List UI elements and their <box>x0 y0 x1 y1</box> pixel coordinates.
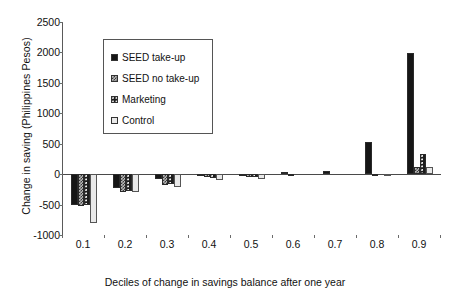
x-axis-tick-labels: 0.10.20.30.40.50.60.70.80.9 <box>62 238 440 254</box>
x-axis-tick-label: 0.9 <box>399 238 439 250</box>
bar-group <box>315 22 357 235</box>
x-axis-tick-label: 0.8 <box>357 238 397 250</box>
x-axis-tick-mark <box>272 235 273 238</box>
x-axis-tick-label: 0.7 <box>315 238 355 250</box>
x-axis-tick-mark <box>230 235 231 238</box>
x-axis-tick-mark <box>62 235 63 238</box>
legend-swatch-icon <box>111 96 118 103</box>
legend-item-label: Marketing <box>122 94 166 105</box>
y-axis-tick-label: 1500 <box>20 77 60 89</box>
x-axis-tick-mark <box>188 235 189 238</box>
x-axis-tick-mark <box>314 235 315 238</box>
legend-item-label: SEED no take-up <box>122 73 199 84</box>
bar <box>365 142 371 174</box>
bar <box>174 174 180 187</box>
bar-group <box>273 22 315 235</box>
bar <box>384 174 390 176</box>
y-axis-tick-mark <box>59 144 63 145</box>
legend-item[interactable]: SEED no take-up <box>111 68 212 89</box>
y-axis-tick-labels: 25002000150010005000-500-1000 <box>16 0 60 299</box>
bar-group <box>63 22 105 235</box>
bar <box>372 174 378 176</box>
bar <box>216 174 222 179</box>
legend-item[interactable]: Marketing <box>111 89 212 110</box>
x-axis-tick-label: 0.6 <box>273 238 313 250</box>
bar <box>132 174 138 192</box>
y-axis-tick-label: 0 <box>20 168 60 180</box>
x-axis-tick-mark <box>104 235 105 238</box>
y-axis-tick-mark <box>59 174 63 175</box>
x-axis-tick-mark <box>356 235 357 238</box>
x-axis-tick-label: 0.3 <box>147 238 187 250</box>
bar <box>258 174 264 179</box>
bar-group <box>357 22 399 235</box>
bar-group <box>399 22 441 235</box>
x-axis-tick-mark <box>440 235 441 238</box>
y-axis-tick-label: -500 <box>20 199 60 211</box>
y-axis-tick-label: 2500 <box>20 16 60 28</box>
y-axis-tick-mark <box>59 113 63 114</box>
bar <box>323 171 329 174</box>
bar <box>90 174 96 223</box>
y-axis-tick-mark <box>59 22 63 23</box>
y-axis-tick-mark <box>59 83 63 84</box>
x-axis-title: Deciles of change in savings balance aft… <box>0 276 450 288</box>
bar <box>426 167 432 174</box>
chart-figure: Change in saving (Philippines Pesos) 250… <box>0 0 450 299</box>
legend-item-label: SEED take-up <box>122 52 185 63</box>
legend-swatch-icon <box>111 117 118 124</box>
legend-item[interactable]: SEED take-up <box>111 47 212 68</box>
bar <box>407 53 413 174</box>
x-axis-tick-mark <box>146 235 147 238</box>
legend-item[interactable]: Control <box>111 110 212 131</box>
legend-swatch-icon <box>111 54 118 61</box>
x-axis-tick-label: 0.5 <box>231 238 271 250</box>
y-axis-tick-label: 2000 <box>20 46 60 58</box>
y-axis-tick-label: 500 <box>20 138 60 150</box>
legend-item-label: Control <box>122 115 154 126</box>
y-axis-tick-mark <box>59 52 63 53</box>
x-axis-tick-label: 0.2 <box>105 238 145 250</box>
y-axis-tick-mark <box>59 205 63 206</box>
x-axis-tick-label: 0.4 <box>189 238 229 250</box>
legend-swatch-icon <box>111 75 118 82</box>
bar <box>288 174 294 176</box>
y-axis-tick-label: 1000 <box>20 107 60 119</box>
x-axis-tick-label: 0.1 <box>63 238 103 250</box>
x-axis-tick-mark <box>398 235 399 238</box>
bar-group <box>231 22 273 235</box>
chart-legend: SEED take-upSEED no take-upMarketingCont… <box>103 39 213 134</box>
y-axis-tick-label: -1000 <box>20 229 60 241</box>
